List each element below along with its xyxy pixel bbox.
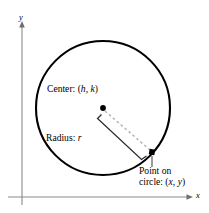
point-on-circle-label: Point on circle: (x, y): [139, 166, 185, 187]
x-axis-label: x: [196, 191, 200, 201]
radius-bracket-line: [98, 115, 147, 160]
circle-diagram-figure: y x Center: (h, k) Radius: r Point on ci…: [0, 0, 209, 213]
center-label: Center: (h, k): [47, 84, 98, 95]
point-label-prefix: circle: (: [139, 176, 169, 187]
x-axis-arrowhead-icon: [187, 194, 194, 200]
center-label-suffix: ): [95, 83, 98, 94]
center-label-prefix: Center: (: [47, 83, 81, 94]
y-axis: [19, 21, 25, 205]
radius-label-symbol: r: [78, 132, 82, 143]
radius-label: Radius: r: [46, 133, 81, 144]
point-label-line2: circle: (x, y): [139, 177, 185, 188]
point-on-circle-marker: [149, 149, 155, 155]
y-axis-label: y: [19, 13, 23, 23]
x-axis: [8, 194, 193, 200]
radius-dashed-line: [105, 111, 150, 150]
radius-label-prefix: Radius:: [46, 132, 78, 143]
point-label-suffix: ): [182, 176, 185, 187]
center-point-marker: [100, 105, 106, 111]
